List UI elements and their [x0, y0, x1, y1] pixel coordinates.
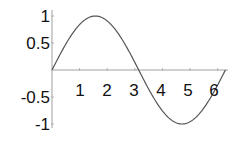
- x-tick-label-4: 4: [156, 81, 165, 100]
- y-tick-label-neg-1: -1: [35, 115, 50, 134]
- y-tick-label-neg-0.5: -0.5: [21, 88, 50, 107]
- x-tick-label-3: 3: [129, 81, 138, 100]
- x-tick-label-6: 6: [209, 81, 218, 100]
- y-tick-label-1: 1: [41, 7, 50, 26]
- x-tick-label-5: 5: [183, 81, 192, 100]
- x-tick-label-1: 1: [75, 81, 84, 100]
- sine-plot: 1 2 3 4 5 6 1 0.5 -0.5 -1: [0, 0, 235, 142]
- x-tick-label-2: 2: [102, 81, 111, 100]
- y-tick-label-0.5: 0.5: [26, 34, 50, 53]
